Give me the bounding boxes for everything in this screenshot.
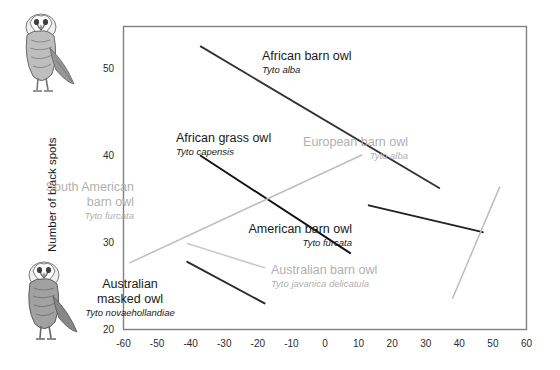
series-annotation: African barn owlTyto alba [262,49,352,75]
series-annotation: American barn owlTyto furcata [248,222,352,248]
x-tick-label: 40 [444,338,474,349]
series-annotation: South Americanbarn owlTyto furcata [46,180,134,221]
annotation-scientific-name: Tyto javanica delicatula [271,278,377,289]
series-annotation: European barn owlTyto alba [303,135,408,161]
x-tick-label: -40 [176,338,206,349]
x-tick-label: 50 [478,338,508,349]
annotation-scientific-name: Tyto alba [303,150,408,161]
series-line [453,187,500,298]
y-tick-label: 50 [88,63,114,74]
annotation-common-name: Australianmasked owl [60,277,200,307]
series-annotation: Australian barn owlTyto javanica delicat… [271,263,377,289]
x-tick-label: -30 [209,338,239,349]
y-tick-label: 30 [88,237,114,248]
annotation-common-name: African barn owl [262,49,352,64]
series-annotation: Australianmasked owlTyto novaehollandiae [60,277,200,318]
x-tick-label: -50 [142,338,172,349]
x-tick-label: -10 [276,338,306,349]
x-tick-label: 60 [512,338,542,349]
annotation-scientific-name: Tyto alba [262,64,352,75]
owl-spots-figure: Number of black spots 20304050 -60-50-40… [0,0,560,370]
annotation-scientific-name: Tyto furcata [248,237,352,248]
series-line [369,205,483,232]
annotation-scientific-name: Tyto furcata [46,210,134,221]
x-tick-label: 30 [411,338,441,349]
y-tick-label: 40 [88,150,114,161]
annotation-common-name: South Americanbarn owl [46,180,134,210]
annotation-common-name: American barn owl [248,222,352,237]
annotation-common-name: European barn owl [303,135,408,150]
x-tick-label: 20 [377,338,407,349]
series-annotation: African grass owlTyto capensis [176,131,271,157]
annotation-common-name: Australian barn owl [271,263,377,278]
annotation-scientific-name: Tyto novaehollandiae [60,307,200,318]
x-tick-label: -60 [109,338,139,349]
x-tick-label: -20 [243,338,273,349]
annotation-scientific-name: Tyto capensis [176,146,271,157]
annotation-common-name: African grass owl [176,131,271,146]
x-tick-label: 0 [310,338,340,349]
x-tick-label: 10 [344,338,374,349]
y-tick-label: 20 [88,324,114,335]
